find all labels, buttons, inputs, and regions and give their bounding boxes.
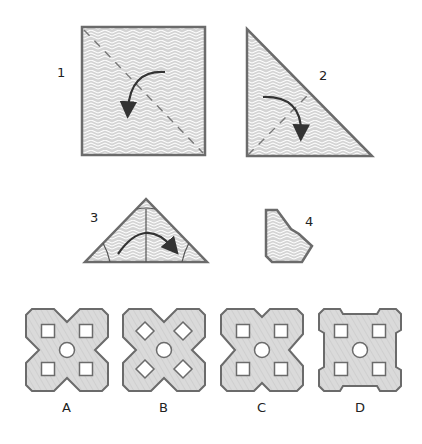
answer-options <box>26 309 401 391</box>
square-hole <box>335 325 348 338</box>
square-hole <box>42 325 55 338</box>
circle-hole <box>255 343 270 358</box>
square-hole <box>42 363 55 376</box>
step-1: 1 <box>57 27 205 155</box>
step-2-label: 2 <box>319 68 327 83</box>
step-1-label: 1 <box>57 65 65 80</box>
option-b[interactable] <box>123 309 205 391</box>
puzzle-canvas: 1 2 3 4 A B C D <box>0 0 422 444</box>
square-hole <box>275 363 288 376</box>
option-a-label[interactable]: A <box>62 400 71 415</box>
triangle-paper <box>247 29 372 156</box>
square-hole <box>335 363 348 376</box>
option-b-label[interactable]: B <box>159 400 168 415</box>
circle-hole <box>157 343 172 358</box>
option-d-label[interactable]: D <box>355 400 365 415</box>
square-hole <box>237 325 250 338</box>
step-3-label: 3 <box>90 210 98 225</box>
square-hole <box>373 363 386 376</box>
option-c-label[interactable]: C <box>257 400 266 415</box>
circle-hole <box>353 343 368 358</box>
option-d[interactable] <box>319 309 401 391</box>
step-3: 3 <box>85 199 207 262</box>
option-a[interactable] <box>26 309 108 391</box>
step-4-label: 4 <box>305 214 313 229</box>
square-hole <box>80 325 93 338</box>
step-2: 2 <box>247 29 372 156</box>
square-paper <box>82 27 205 155</box>
square-hole <box>373 325 386 338</box>
step-4: 4 <box>266 210 313 262</box>
circle-hole <box>60 343 75 358</box>
option-c[interactable] <box>221 309 303 391</box>
square-hole <box>275 325 288 338</box>
square-hole <box>80 363 93 376</box>
square-hole <box>237 363 250 376</box>
